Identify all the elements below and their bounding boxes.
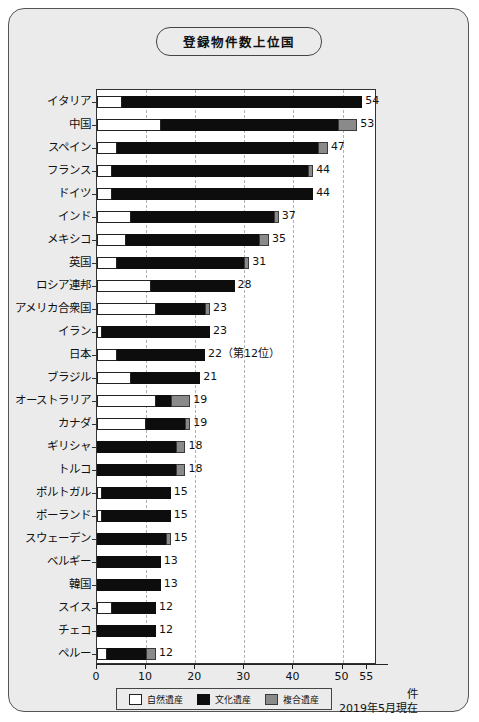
bar-segment-natural	[97, 372, 131, 384]
bar-segment-cultural	[131, 211, 273, 223]
stacked-bar	[97, 142, 328, 154]
stacked-bar	[97, 418, 190, 430]
bar-segment-cultural	[122, 96, 363, 108]
legend-item-mixed: 複合遺産	[265, 693, 319, 706]
chart-row: 日本22（第12位）	[97, 348, 375, 362]
chart-title: 登録物件数上位国	[156, 27, 322, 56]
bar-segment-natural	[97, 349, 117, 361]
category-label: 中国	[69, 116, 91, 132]
stacked-bar	[97, 188, 313, 200]
bar-segment-mixed	[318, 142, 328, 154]
stacked-bar	[97, 280, 235, 292]
bar-segment-natural	[97, 188, 112, 200]
category-label: ペルー	[58, 645, 91, 661]
x-axis-label: 0	[93, 670, 100, 683]
stacked-bar	[97, 234, 269, 246]
bar-segment-natural	[97, 648, 107, 660]
x-axis-label: 20	[187, 670, 201, 683]
stacked-bar	[97, 602, 156, 614]
bar-segment-cultural	[117, 257, 245, 269]
stacked-bar	[97, 96, 362, 108]
x-axis-tick	[96, 664, 97, 669]
category-label: イタリア	[47, 93, 91, 109]
bar-segment-mixed	[308, 165, 313, 177]
chart-row: イタリア54	[97, 95, 375, 109]
bar-segment-cultural	[131, 372, 200, 384]
stacked-bar	[97, 165, 313, 177]
x-axis-label: 40	[285, 670, 299, 683]
bar-value-label: 22（第12位）	[208, 347, 280, 361]
bar-segment-cultural	[102, 487, 171, 499]
bar-segment-mixed	[171, 395, 191, 407]
bar-segment-mixed	[244, 257, 249, 269]
x-axis-tick	[243, 664, 244, 669]
category-label: カナダ	[58, 415, 91, 431]
legend-item-natural: 自然遺産	[129, 693, 183, 706]
chart-row: フランス44	[97, 164, 375, 178]
legend-label-natural: 自然遺産	[147, 693, 183, 706]
bar-value-label: 12	[159, 600, 173, 614]
stacked-bar	[97, 303, 210, 315]
chart-row: スウェーデン15	[97, 532, 375, 546]
chart-row: ブラジル21	[97, 371, 375, 385]
bar-segment-natural	[97, 119, 161, 131]
stacked-bar	[97, 533, 171, 545]
chart-row: カナダ19	[97, 417, 375, 431]
bar-segment-natural	[97, 395, 156, 407]
category-label: フランス	[47, 162, 91, 178]
bar-segment-cultural	[102, 510, 171, 522]
legend-swatch-cultural	[197, 694, 210, 705]
category-label: ブラジル	[47, 369, 91, 385]
category-label: スウェーデン	[25, 530, 91, 546]
bar-value-label: 15	[174, 508, 188, 522]
stacked-bar	[97, 487, 171, 499]
bar-segment-cultural	[161, 119, 338, 131]
stacked-bar	[97, 395, 190, 407]
x-axis-tick	[342, 664, 343, 669]
bar-segment-natural	[97, 418, 146, 430]
category-label: イラン	[58, 323, 91, 339]
x-axis-line	[96, 664, 388, 665]
bar-value-label: 15	[174, 485, 188, 499]
category-label: インド	[58, 208, 91, 224]
x-axis-tick	[366, 664, 367, 669]
category-label: 日本	[69, 346, 91, 362]
bar-segment-natural	[97, 303, 156, 315]
bar-segment-mixed	[146, 648, 156, 660]
bar-segment-natural	[97, 602, 112, 614]
chart-row: スペイン47	[97, 141, 375, 155]
chart-row: トルコ18	[97, 463, 375, 477]
x-axis-tick	[194, 664, 195, 669]
bar-value-label: 15	[174, 531, 188, 545]
as-of-date: 2019年5月現在	[339, 699, 418, 715]
stacked-bar	[97, 326, 210, 338]
stacked-bar	[97, 464, 185, 476]
bar-value-label: 13	[164, 554, 178, 568]
bar-segment-cultural	[97, 579, 161, 591]
bar-segment-mixed	[185, 418, 190, 430]
chart-row: ロシア連邦28	[97, 279, 375, 293]
chart-row: 韓国13	[97, 578, 375, 592]
category-label: メキシコ	[47, 231, 91, 247]
stacked-bar	[97, 625, 156, 637]
bar-segment-cultural	[107, 648, 146, 660]
bar-value-label: 37	[282, 209, 296, 223]
bar-segment-cultural	[117, 349, 205, 361]
bar-segment-natural	[97, 280, 151, 292]
bar-value-label: 31	[252, 255, 266, 269]
legend-swatch-mixed	[265, 694, 278, 705]
category-label: スペイン	[48, 139, 91, 155]
stacked-bar	[97, 119, 357, 131]
chart-row: ギリシャ18	[97, 440, 375, 454]
bar-value-label: 47	[331, 140, 345, 154]
chart-row: ポーランド15	[97, 509, 375, 523]
stacked-bar	[97, 441, 185, 453]
bar-segment-cultural	[156, 395, 171, 407]
bar-value-label: 19	[193, 416, 207, 430]
chart-row: チェコ12	[97, 624, 375, 638]
category-label: ロシア連邦	[36, 277, 91, 293]
bar-segment-mixed	[274, 211, 279, 223]
legend-item-cultural: 文化遺産	[197, 693, 251, 706]
bar-value-label: 54	[365, 94, 379, 108]
bar-segment-cultural	[151, 280, 235, 292]
